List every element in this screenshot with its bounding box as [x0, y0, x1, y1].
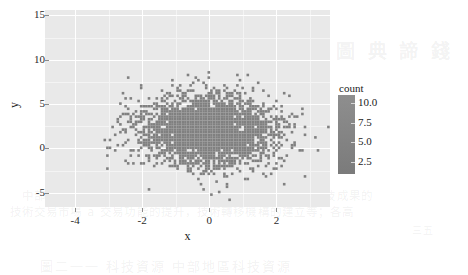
scatter-point: [262, 126, 265, 129]
scatter-point: [215, 139, 218, 142]
scatter-point: [280, 131, 283, 134]
scatter-point: [275, 162, 278, 165]
scatter-point: [197, 178, 200, 181]
scatter-point: [249, 123, 252, 126]
scatter-point: [275, 126, 278, 129]
scatter-point: [166, 126, 169, 129]
scatter-point: [192, 123, 195, 126]
scatter-point: [234, 141, 237, 144]
scatter-point: [166, 141, 169, 144]
scatter-point: [221, 105, 224, 108]
scatter-point: [122, 113, 125, 116]
scatter-point: [234, 113, 237, 116]
scatter-point: [231, 126, 234, 129]
scatter-point: [210, 131, 213, 134]
scatter-point: [174, 110, 177, 113]
scatter-point: [187, 128, 190, 131]
scatter-point: [200, 131, 203, 134]
scatter-point: [189, 167, 192, 170]
scatter-point: [213, 157, 216, 160]
y-axis-title: y: [7, 102, 22, 108]
scatter-point: [314, 136, 317, 139]
scatter-point: [111, 126, 114, 129]
scatter-point: [163, 121, 166, 124]
scatter-point: [130, 118, 133, 121]
scatter-point: [210, 115, 213, 118]
scatter-point: [223, 144, 226, 147]
scatter-point: [239, 123, 242, 126]
scatter-point: [223, 134, 226, 137]
scatter-point: [208, 105, 211, 108]
scatter-point: [231, 110, 234, 113]
scatter-point: [205, 167, 208, 170]
scatter-point: [265, 123, 268, 126]
scatter-point: [156, 154, 159, 157]
scatter-point: [218, 167, 221, 170]
legend-tick-labels: 10.07.55.02.5: [358, 95, 392, 174]
scatter-point: [221, 147, 224, 150]
scatter-point: [202, 157, 205, 160]
scatter-point: [249, 152, 252, 155]
scatter-point: [135, 128, 138, 131]
scatter-point: [200, 152, 203, 155]
scatter-point: [205, 154, 208, 157]
scatter-point: [215, 149, 218, 152]
scatter-point: [156, 157, 159, 160]
scatter-point: [176, 110, 179, 113]
scatter-point: [208, 95, 211, 98]
scatter-point: [215, 157, 218, 160]
scatter-point: [189, 128, 192, 131]
scatter-point: [166, 144, 169, 147]
scatter-point: [241, 149, 244, 152]
scatter-point: [244, 128, 247, 131]
scatter-point: [265, 121, 268, 124]
scatter-point: [205, 118, 208, 121]
scatter-point: [247, 108, 250, 111]
scatter-point: [228, 92, 231, 95]
scatter-point: [260, 134, 263, 137]
scatter-point: [153, 139, 156, 142]
scatter-point: [158, 139, 161, 142]
scatter-point: [236, 152, 239, 155]
scatter-point: [200, 118, 203, 121]
scatter-point: [228, 108, 231, 111]
scatter-point: [179, 123, 182, 126]
scatter-point: [260, 108, 263, 111]
scatter-point: [215, 121, 218, 124]
scatter-point: [213, 154, 216, 157]
scatter-point: [273, 105, 276, 108]
scatter-point: [239, 118, 242, 121]
scatter-point: [283, 160, 286, 163]
scatter-point: [244, 152, 247, 155]
scatter-point: [267, 126, 270, 129]
scatter-point: [226, 131, 229, 134]
scatter-point: [197, 79, 200, 82]
legend-tick-mark: [351, 123, 355, 124]
scatter-point: [158, 147, 161, 150]
legend-body: 10.07.55.02.5: [338, 95, 392, 174]
scatter-point: [140, 105, 143, 108]
scatter-point: [195, 76, 198, 79]
scatter-point: [143, 118, 146, 121]
scatter-point: [226, 92, 229, 95]
scatter-point: [202, 136, 205, 139]
scatter-point: [200, 121, 203, 124]
scatter-point: [267, 154, 270, 157]
scatter-point: [223, 97, 226, 100]
scatter-point: [260, 126, 263, 129]
scatter-point: [135, 121, 138, 124]
scatter-point: [262, 113, 265, 116]
scatter-point: [221, 113, 224, 116]
scatter-point: [260, 152, 263, 155]
scatter-point: [148, 97, 151, 100]
scatter-point: [200, 95, 203, 98]
scatter-point: [189, 144, 192, 147]
scatter-point: [174, 131, 177, 134]
scatter-point: [293, 123, 296, 126]
scatter-point: [228, 118, 231, 121]
scatter-point: [278, 131, 281, 134]
scatter-point: [156, 162, 159, 165]
scatter-point: [231, 113, 234, 116]
scatter-point: [200, 113, 203, 116]
